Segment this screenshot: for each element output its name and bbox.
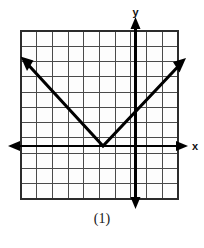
graph-figure: y x (1) <box>0 0 204 248</box>
y-axis-label: y <box>132 6 139 18</box>
figure-caption: (1) <box>0 211 204 227</box>
x-axis-label: x <box>192 140 199 152</box>
